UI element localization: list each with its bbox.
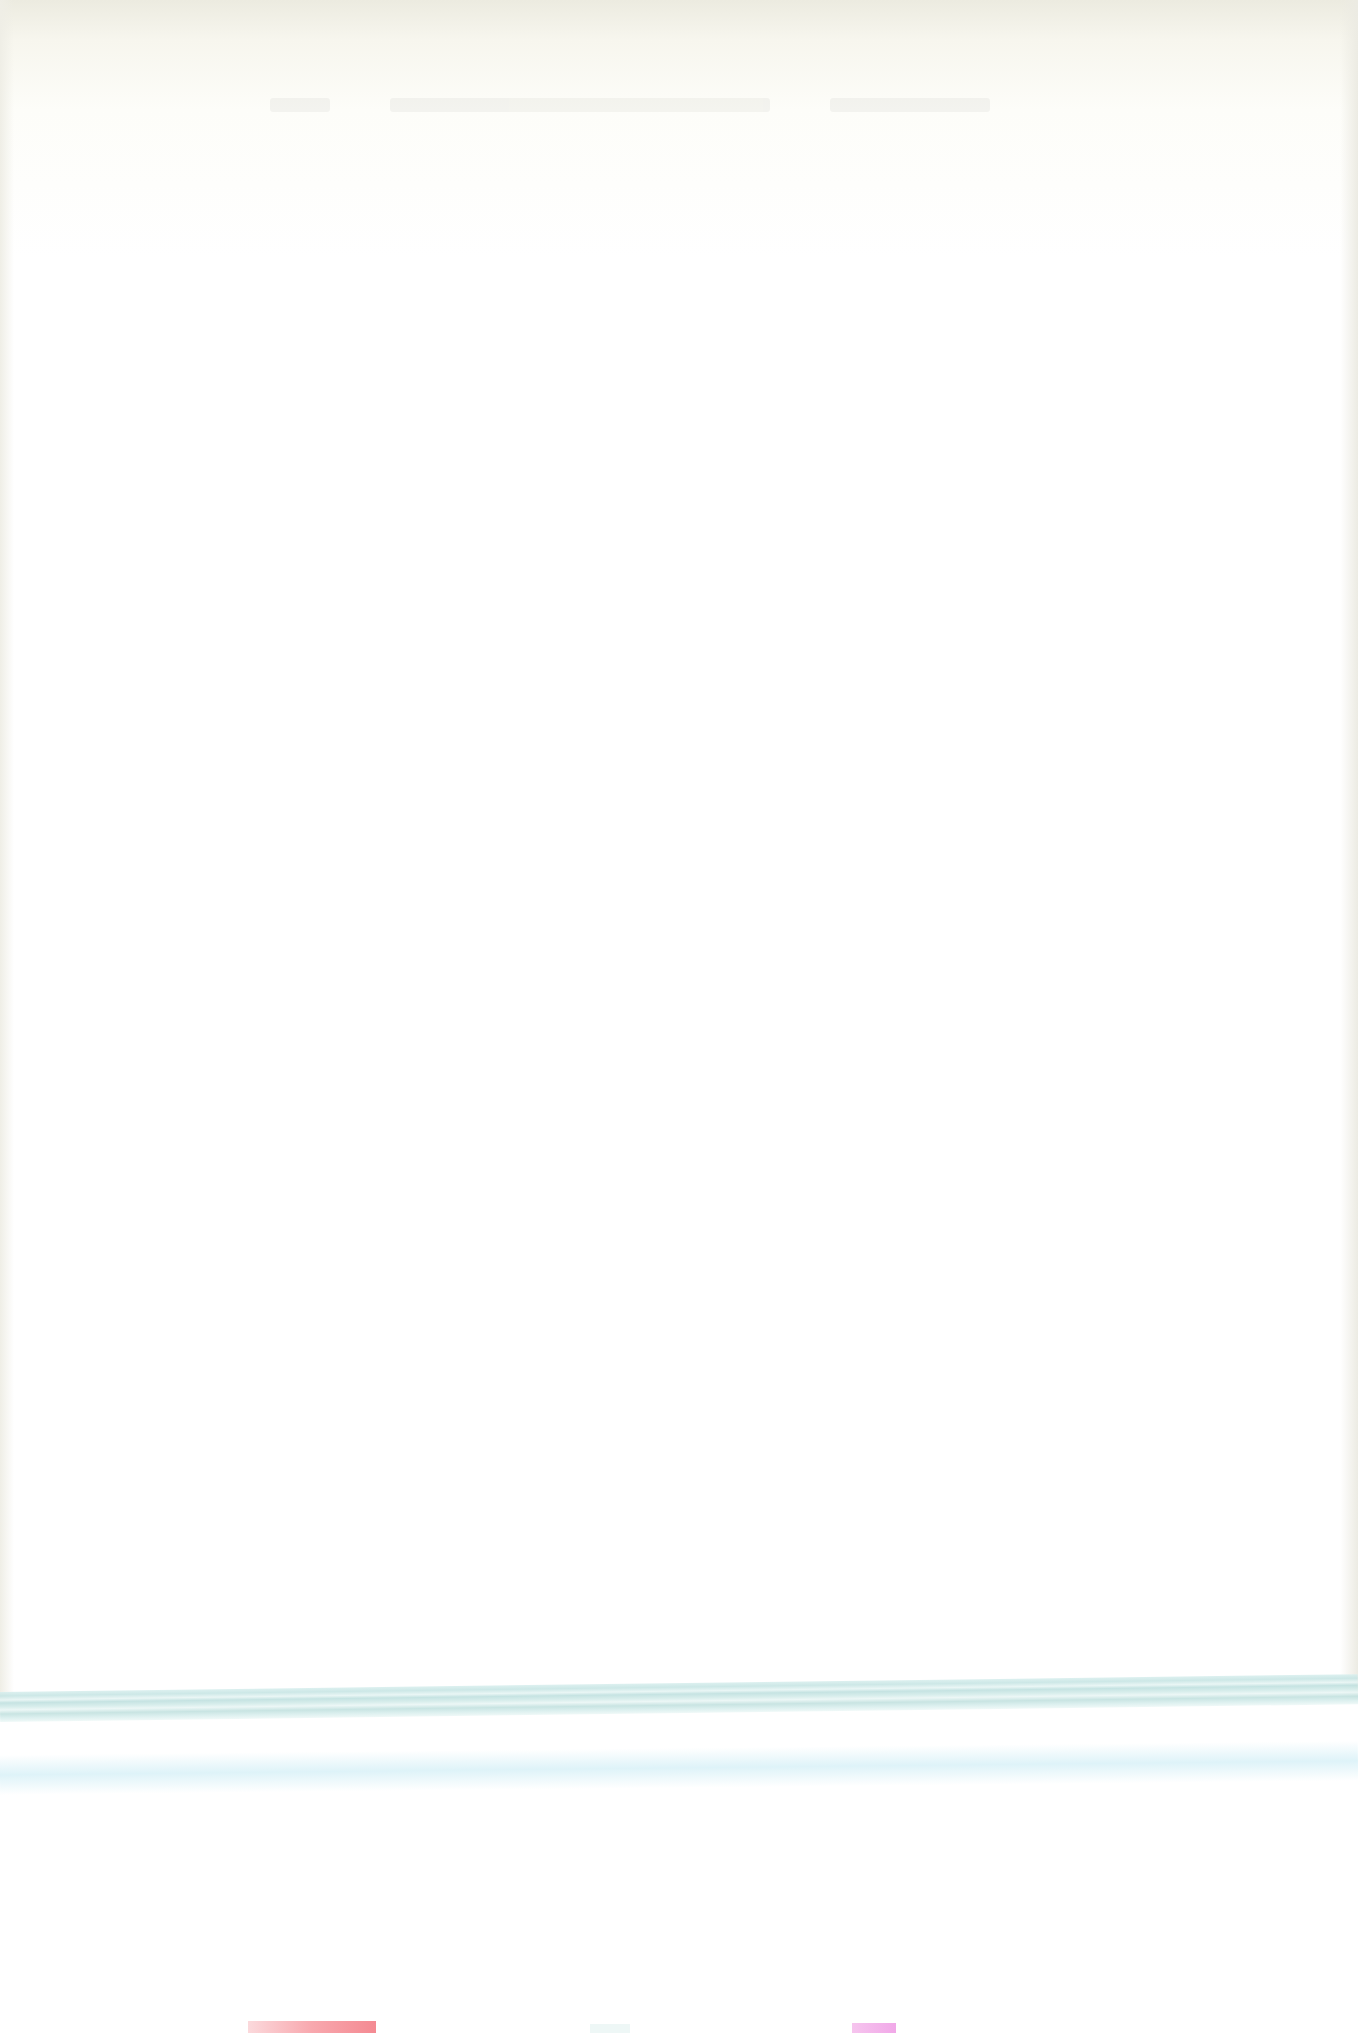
faded-header-word: [390, 98, 770, 112]
red-color-block: [248, 2021, 376, 2033]
faded-header-text: [270, 92, 1090, 118]
faint-teal-stripe: [0, 1741, 1358, 1795]
pink-color-block: [852, 2023, 896, 2033]
teal-stripe-band: [0, 1674, 1358, 1722]
page-edge-shadow-right: [1340, 0, 1358, 1700]
faded-header-word: [270, 98, 330, 112]
faint-color-block: [590, 2024, 630, 2033]
page-edge-shadow-left: [0, 0, 14, 1700]
faded-header-word: [830, 98, 990, 112]
scanned-page: [0, 0, 1358, 2033]
